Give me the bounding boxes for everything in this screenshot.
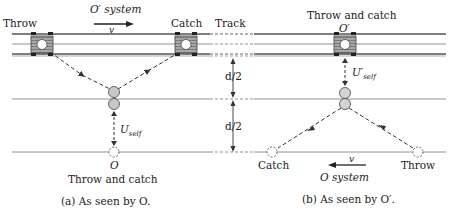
ball-lower-right [340, 99, 351, 110]
event-label-left: Throw and catch [68, 174, 158, 185]
observer-o-prime-label: O′ [339, 23, 350, 34]
ball-lower-left [109, 99, 120, 110]
o-system-text: O system [320, 171, 369, 183]
half-distance-top: d/2 [225, 71, 242, 82]
throw-label-right: Throw [401, 160, 435, 171]
uself-sub: self [129, 130, 142, 138]
o-prime-system-text: O′ system [90, 3, 141, 15]
uself-prime-main: U′ [352, 66, 363, 78]
ball-upper-right [340, 88, 351, 99]
event-label-right: Throw and catch [307, 10, 397, 21]
system-label-bottom: O system [320, 172, 369, 183]
ball-upper-left [109, 87, 120, 98]
observer-o-label: O [110, 160, 119, 171]
velocity-label-bottom: v [349, 155, 354, 164]
uself-label-left: Uself [120, 124, 141, 138]
half-distance-bottom: d/2 [225, 121, 242, 132]
trajectory-right [278, 108, 413, 148]
throw-cart-left [31, 32, 53, 56]
throw-marker-right [413, 147, 423, 157]
catch-label-right: Catch [258, 160, 289, 171]
track-label: Track [215, 18, 246, 29]
catch-cart-left [175, 32, 197, 56]
uself-main: U [120, 123, 129, 135]
velocity-label-top: v [109, 26, 114, 35]
caption-b: (b) As seen by O′. [302, 194, 395, 205]
system-label-top: O′ system [90, 4, 141, 15]
caption-a: (a) As seen by O. [61, 196, 150, 207]
trajectory-left [50, 52, 178, 89]
observer-cart-right [334, 32, 356, 56]
catch-marker-right [267, 147, 277, 157]
throw-label-left: Throw [3, 18, 37, 29]
uself-label-right: U′self [352, 67, 376, 81]
catch-label-left: Catch [171, 18, 202, 29]
uself-prime-sub: self [363, 73, 376, 81]
observer-o-marker [109, 147, 119, 157]
